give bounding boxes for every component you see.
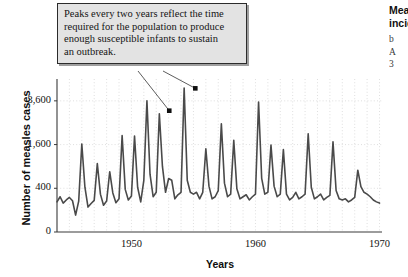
y-tick-label-3: 3,600 xyxy=(5,94,51,105)
y-tick-label-0: 0 xyxy=(5,225,51,236)
measles-cases-line xyxy=(57,88,380,215)
y-axis-title: Number of measles cases xyxy=(20,83,32,233)
x-tick-label-0: 1950 xyxy=(111,238,151,249)
y-tick-label-1: 400 xyxy=(5,181,51,192)
measles-incidence-figure: Peaks every two years reflect the time r… xyxy=(0,0,408,277)
x-axis-title: Years xyxy=(160,258,280,270)
side-caption-title: Measles incidence xyxy=(389,4,408,29)
side-caption-column: Measles incidence b A 3 xyxy=(389,4,408,114)
x-tick-label-2: 1970 xyxy=(360,238,400,249)
measles-line-chart xyxy=(0,0,408,277)
x-tick-label-1: 1960 xyxy=(235,238,275,249)
y-tick-label-2: 1,600 xyxy=(5,138,51,149)
side-caption-body: b A 3 xyxy=(389,33,408,71)
